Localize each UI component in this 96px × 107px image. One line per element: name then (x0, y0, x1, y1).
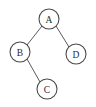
tree-node-b[interactable]: B (10, 42, 30, 62)
edge-b-c (27, 59, 40, 82)
tree-node-c[interactable]: C (37, 79, 57, 99)
tree-node-d[interactable]: D (66, 44, 86, 64)
tree-node-a[interactable]: A (39, 9, 59, 29)
tree-diagram: A B D C (0, 0, 96, 107)
edge-a-d (56, 26, 69, 47)
node-label-a: A (46, 15, 53, 25)
node-label-c: C (44, 85, 50, 95)
tree-edges (27, 26, 69, 82)
node-label-b: B (17, 48, 23, 58)
node-label-d: D (73, 50, 80, 60)
tree-diagram-canvas: A B D C (0, 0, 96, 107)
edge-a-b (27, 26, 42, 45)
